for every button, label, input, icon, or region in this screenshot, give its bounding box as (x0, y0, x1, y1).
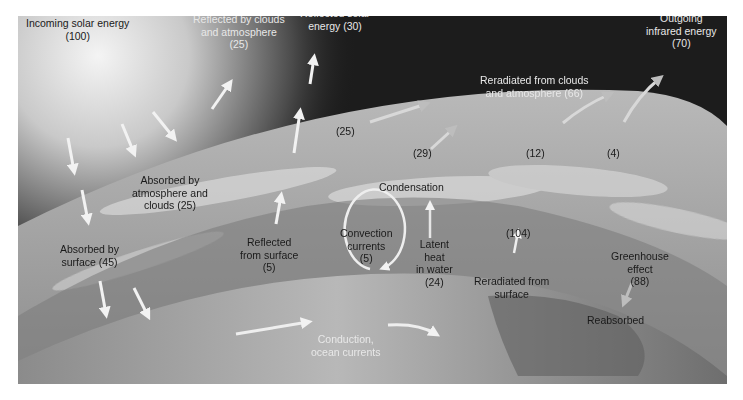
label-absorbed-atmosphere: Absorbed by atmosphere and clouds (25) (132, 174, 208, 212)
value-104: (104) (506, 227, 531, 240)
value-29: (29) (413, 147, 432, 160)
label-line: clouds (25) (132, 199, 208, 212)
label-line: Convection (340, 227, 393, 240)
label-absorbed-surface: Absorbed by surface (45) (60, 243, 119, 268)
label-line: Conduction, (311, 333, 380, 346)
figure-graphics (18, 16, 727, 384)
label-line: surface (474, 288, 549, 301)
label-line: (100) (26, 30, 129, 43)
value-4: (4) (607, 147, 620, 160)
label-line: atmosphere and (132, 187, 208, 200)
label-reflected-clouds: Reflected by clouds and atmosphere (25) (193, 16, 285, 51)
label-condensation: Condensation (379, 181, 444, 194)
label-line: Absorbed by (60, 243, 119, 256)
label-line: (5) (240, 261, 298, 274)
label-line: Latent (416, 238, 453, 251)
value-12: (12) (526, 147, 545, 160)
label-reabsorbed: Reabsorbed (587, 314, 644, 327)
label-line: energy (30) (300, 20, 370, 33)
label-reradiated-surface: Reradiated from surface (474, 275, 549, 300)
label-line: ocean currents (311, 346, 380, 359)
label-line: effect (611, 263, 669, 276)
label-line: Reradiated from (474, 275, 549, 288)
energy-budget-figure: Incoming solar energy (100) Reflected by… (18, 16, 727, 384)
label-line: in water (416, 263, 453, 276)
label-line: currents (340, 240, 393, 253)
label-reflected-surface: Reflected from surface (5) (240, 236, 298, 274)
label-line: Outgoing (646, 16, 717, 25)
label-outgoing-infrared: Outgoing infrared energy (70) (646, 16, 717, 50)
label-line: Incoming solar energy (26, 17, 129, 30)
label-line: (88) (611, 275, 669, 288)
label-conduction: Conduction, ocean currents (311, 333, 380, 358)
label-line: Absorbed by (132, 174, 208, 187)
label-line: and atmosphere (66) (480, 87, 589, 100)
label-greenhouse-effect: Greenhouse effect (88) (611, 250, 669, 288)
label-line: infrared energy (646, 25, 717, 38)
label-latent-heat: Latent heat in water (24) (416, 238, 453, 288)
value-25: (25) (336, 125, 355, 138)
label-incoming-solar: Incoming solar energy (100) (26, 17, 129, 42)
label-line: (70) (646, 37, 717, 50)
label-reflected-solar: Reflected solar energy (30) (300, 16, 370, 32)
label-line: heat (416, 251, 453, 264)
label-line: (5) (340, 252, 393, 265)
label-line: Reflected solar (300, 16, 370, 20)
label-line: Reflected (240, 236, 298, 249)
label-line: and atmosphere (193, 26, 285, 39)
label-line: Reradiated from clouds (480, 74, 589, 87)
label-line: (25) (193, 38, 285, 51)
label-line: (24) (416, 276, 453, 289)
label-line: from surface (240, 249, 298, 262)
label-line: Reflected by clouds (193, 16, 285, 26)
label-line: surface (45) (60, 256, 119, 269)
label-reradiated-clouds: Reradiated from clouds and atmosphere (6… (480, 74, 589, 99)
label-line: Greenhouse (611, 250, 669, 263)
label-convection: Convection currents (5) (340, 227, 393, 265)
